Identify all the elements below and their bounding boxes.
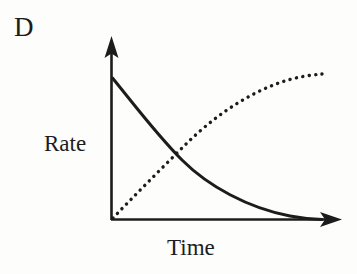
y-axis-label: Rate [44,132,86,155]
x-axis-label: Time [167,236,215,259]
figure-panel: D Rate Time [0,0,357,274]
accumulation-curve [113,74,322,218]
decay-curve [113,78,323,220]
